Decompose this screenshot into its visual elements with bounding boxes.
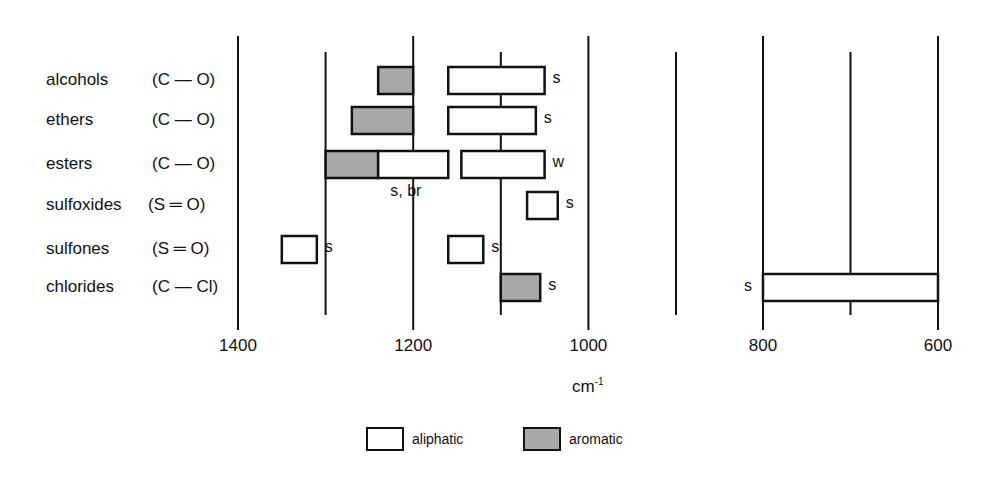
band-sulfones-aliphatic-0 (282, 236, 317, 263)
legend-swatch-aliphatic (366, 427, 404, 451)
band-ethers-aromatic-0 (352, 107, 413, 134)
band-sulfoxides-aliphatic-0 (527, 192, 558, 219)
band-esters-aliphatic-1 (378, 151, 448, 178)
legend-label-aromatic: aromatic (569, 431, 623, 447)
row-label-alcohols: alcohols (46, 70, 108, 90)
intensity-label-sulfoxides-0: s (566, 194, 574, 212)
legend-swatch-aromatic (523, 427, 561, 451)
tick-label-1400: 1400 (219, 336, 257, 356)
band-chlorides-aromatic-0 (501, 274, 540, 301)
x-axis-unit-label: cm-1 (572, 376, 604, 397)
row-bond-chlorides: (C — Cl) (152, 277, 218, 297)
tick-label-800: 800 (749, 336, 777, 356)
intensity-label-alcohols-1: s (553, 69, 561, 87)
band-chlorides-aliphatic-1 (763, 274, 938, 301)
row-label-sulfones: sulfones (46, 239, 109, 259)
intensity-label-chlorides-0: s (548, 276, 556, 294)
row-label-esters: esters (46, 154, 92, 174)
row-bond-sulfones: (S ═ O) (152, 239, 209, 259)
absorption-bands (282, 67, 938, 301)
band-esters-aromatic-0 (326, 151, 379, 178)
row-label-ethers: ethers (46, 110, 93, 130)
band-sulfones-aliphatic-1 (448, 236, 483, 263)
band-ethers-aliphatic-1 (448, 107, 536, 134)
legend-item-aliphatic: aliphatic (366, 427, 463, 451)
band-alcohols-aromatic-0 (378, 67, 413, 94)
intensity-label-sulfones-1: s (491, 238, 499, 256)
row-label-sulfoxides: sulfoxides (46, 195, 122, 215)
row-bond-alcohols: (C — O) (152, 70, 215, 90)
row-label-chlorides: chlorides (46, 277, 114, 297)
intensity-label-chlorides-1: s (744, 277, 752, 295)
band-alcohols-aliphatic-1 (448, 67, 544, 94)
row-bond-ethers: (C — O) (152, 110, 215, 130)
legend-label-aliphatic: aliphatic (412, 431, 463, 447)
tick-label-600: 600 (924, 336, 952, 356)
intensity-label-esters-1: s, br (390, 182, 421, 200)
row-bond-esters: (C — O) (152, 154, 215, 174)
band-esters-aliphatic-2 (461, 151, 544, 178)
intensity-label-sulfones-0: s (325, 238, 333, 256)
row-bond-sulfoxides: (S ═ O) (148, 195, 205, 215)
intensity-label-esters-2: w (553, 153, 565, 171)
tick-label-1000: 1000 (569, 336, 607, 356)
legend-item-aromatic: aromatic (523, 427, 623, 451)
intensity-label-ethers-1: s (544, 109, 552, 127)
tick-label-1200: 1200 (394, 336, 432, 356)
